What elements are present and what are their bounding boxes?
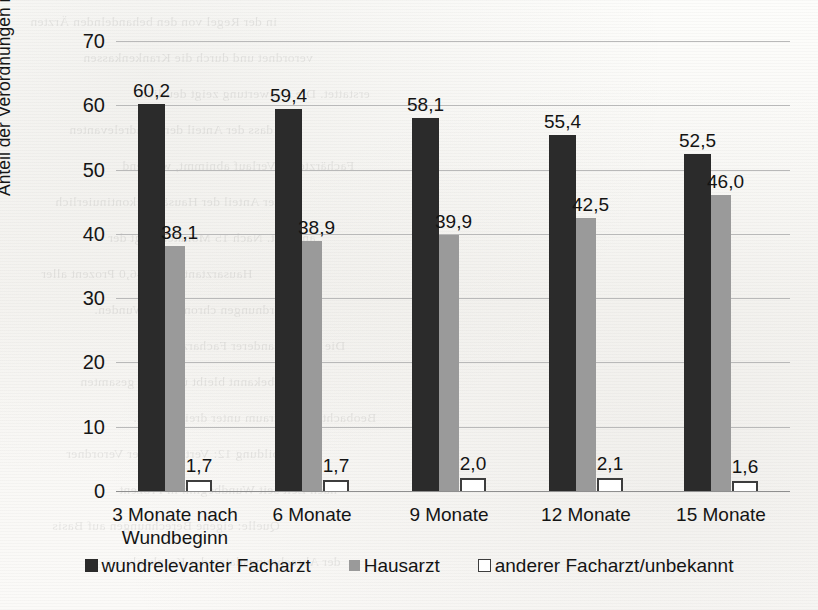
bar-dark[interactable] xyxy=(275,109,302,491)
bar-open[interactable] xyxy=(597,478,623,492)
bar-open[interactable] xyxy=(732,481,758,491)
y-axis-title: Anteil der Verordnungen in % xyxy=(0,0,15,196)
outlined-square-icon xyxy=(478,559,491,572)
legend-item[interactable]: wundrelevanter Facharzt xyxy=(85,556,311,575)
bar-gray[interactable] xyxy=(439,235,459,492)
bar-dark[interactable] xyxy=(138,104,165,491)
bar-value-label: 1,7 xyxy=(179,456,219,475)
bar-open[interactable] xyxy=(323,480,349,491)
bar-open[interactable] xyxy=(460,478,486,491)
y-tick-label: 50 xyxy=(59,160,105,180)
bar-value-label: 38,9 xyxy=(293,218,340,237)
bar-value-label: 2,0 xyxy=(453,454,493,473)
chart-legend: wundrelevanter FacharztHausarztanderer F… xyxy=(0,556,818,575)
bar-value-label: 42,5 xyxy=(567,195,614,214)
dark-square-icon xyxy=(85,559,98,572)
bar-dark[interactable] xyxy=(684,154,711,492)
bar-group: 55,442,52,1 xyxy=(549,41,625,491)
legend-item-label: wundrelevanter Facharzt xyxy=(102,556,311,575)
bar-value-label: 60,2 xyxy=(128,81,175,100)
bar-value-label: 1,7 xyxy=(316,456,356,475)
x-category-label-line: 15 Monate xyxy=(636,503,806,526)
bar-dark[interactable] xyxy=(412,118,439,492)
y-tick-label: 0 xyxy=(59,481,105,501)
bar-value-label: 58,1 xyxy=(402,95,449,114)
bar-value-label: 38,1 xyxy=(156,223,203,242)
legend-item[interactable]: anderer Facharzt/unbekannt xyxy=(478,556,734,575)
bar-gray[interactable] xyxy=(165,246,185,491)
bar-group: 60,238,11,7 xyxy=(138,41,214,491)
bar-value-label: 59,4 xyxy=(265,86,312,105)
bar-group: 58,139,92,0 xyxy=(412,41,488,491)
bar-gray[interactable] xyxy=(576,218,596,491)
bar-value-label: 1,6 xyxy=(725,457,765,476)
bar-value-label: 55,4 xyxy=(539,112,586,131)
bar-group: 59,438,91,7 xyxy=(275,41,351,491)
bar-value-label: 46,0 xyxy=(702,172,749,191)
plot-area: 60,238,11,759,438,91,758,139,92,055,442,… xyxy=(116,41,790,491)
y-tick-label: 40 xyxy=(59,224,105,244)
y-tick-label: 60 xyxy=(59,95,105,115)
bar-value-label: 39,9 xyxy=(430,212,477,231)
x-category-label: 15 Monate xyxy=(636,503,806,526)
gray-square-icon xyxy=(349,560,360,571)
bar-open[interactable] xyxy=(186,480,212,491)
bar-chart: Anteil der Verordnungen in % 70605040302… xyxy=(0,0,818,610)
bar-gray[interactable] xyxy=(302,241,322,491)
bar-dark[interactable] xyxy=(549,135,576,491)
y-tick-label: 30 xyxy=(59,288,105,308)
legend-item-label: Hausarzt xyxy=(364,556,440,575)
bar-group: 52,546,01,6 xyxy=(684,41,760,491)
bar-value-label: 2,1 xyxy=(590,454,630,473)
bar-value-label: 52,5 xyxy=(674,131,721,150)
legend-item[interactable]: Hausarzt xyxy=(349,556,440,575)
x-category-label-line: Wundbeginn xyxy=(90,526,260,549)
y-tick-label: 20 xyxy=(59,352,105,372)
legend-item-label: anderer Facharzt/unbekannt xyxy=(495,556,734,575)
y-tick-label: 10 xyxy=(59,417,105,437)
gridline xyxy=(116,491,790,492)
y-tick-label: 70 xyxy=(59,31,105,51)
bar-gray[interactable] xyxy=(711,195,731,491)
